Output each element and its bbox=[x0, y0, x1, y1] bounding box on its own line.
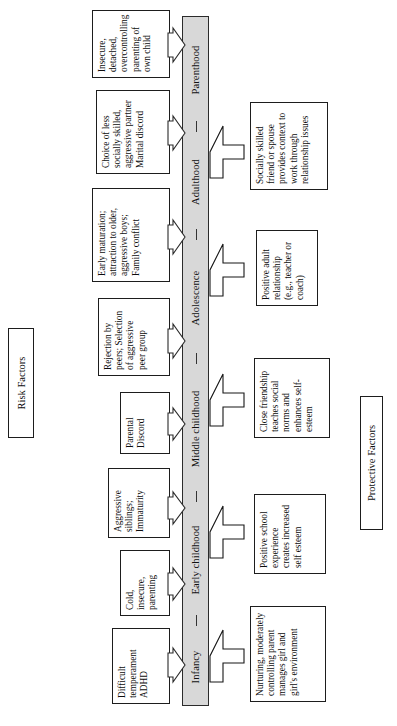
risk-factor-box-middle-childhood-parental-discord: Parental Discord bbox=[120, 392, 170, 454]
stage-label-middle-childhood: Middle childhood bbox=[182, 368, 209, 490]
risk-arrow-early-childhood-parenting bbox=[168, 568, 186, 600]
risk-factor-box-infancy: Difficult temperament ADHD bbox=[112, 628, 170, 704]
risk-arrow-infancy bbox=[168, 648, 186, 682]
stage-label-adulthood: Adulthood bbox=[182, 136, 209, 228]
risk-arrow-adulthood bbox=[168, 116, 186, 150]
risk-factor-box-middle-childhood-peer-rejection: Rejection by peers; Selection of aggress… bbox=[98, 298, 170, 376]
protective-arrow-middle-childhood bbox=[210, 374, 244, 426]
protective-factor-box-infancy: Nurturing, moderately controlling parent… bbox=[250, 606, 326, 702]
risk-factor-box-early-childhood-parenting: Cold, insecure, parenting bbox=[120, 550, 170, 616]
protective-arrow-early-childhood bbox=[210, 506, 244, 558]
risk-factor-box-adolescence: Early maturation; attraction to older, a… bbox=[92, 188, 170, 282]
stage-tick-1 bbox=[196, 615, 197, 626]
protective-factor-box-adolescence: Positive adult relationship (e.g., teach… bbox=[256, 230, 318, 306]
developmental-pathway-diagram: Infancy Early childhood Middle childhood… bbox=[0, 0, 397, 726]
protective-factor-box-early-childhood: Positive school experience creates incre… bbox=[254, 494, 326, 574]
risk-arrow-adolescence bbox=[168, 220, 186, 254]
stage-tick-4 bbox=[196, 229, 197, 240]
stage-label-infancy: Infancy bbox=[182, 628, 209, 706]
stage-tick-3 bbox=[196, 353, 197, 364]
risk-arrow-middle-childhood-parental-discord bbox=[168, 408, 186, 440]
protective-factors-section-label: Protective Factors bbox=[360, 396, 383, 530]
protective-factor-box-middle-childhood: Close friendship teaches social norms an… bbox=[254, 358, 330, 438]
risk-arrow-middle-childhood-peer-rejection bbox=[168, 324, 186, 358]
risk-factor-box-adulthood: Choice of less socially skilled, aggress… bbox=[96, 90, 170, 174]
risk-factor-box-early-childhood-siblings: Aggressive siblings; Immaturity bbox=[108, 468, 170, 538]
risk-arrow-parenthood bbox=[168, 28, 186, 62]
stage-label-parenthood: Parenthood bbox=[182, 20, 209, 120]
risk-arrow-early-childhood-siblings bbox=[168, 492, 186, 524]
protective-arrow-adulthood bbox=[210, 126, 244, 178]
stage-label-adolescence: Adolescence bbox=[182, 244, 209, 352]
risk-factors-section-label: Risk Factors bbox=[8, 328, 34, 438]
protective-arrow-infancy bbox=[210, 630, 244, 682]
protective-arrow-adolescence bbox=[210, 244, 244, 296]
protective-factor-box-adulthood: Socially skilled friend or spouse provid… bbox=[250, 102, 328, 190]
risk-factor-box-parenthood: Insecure, detached, overcontrolling pare… bbox=[92, 10, 170, 78]
stage-label-early-childhood: Early childhood bbox=[182, 506, 209, 614]
stage-tick-5 bbox=[196, 121, 197, 132]
stage-tick-2 bbox=[196, 491, 197, 502]
figure-rotation-wrapper: Infancy Early childhood Middle childhood… bbox=[0, 0, 397, 726]
